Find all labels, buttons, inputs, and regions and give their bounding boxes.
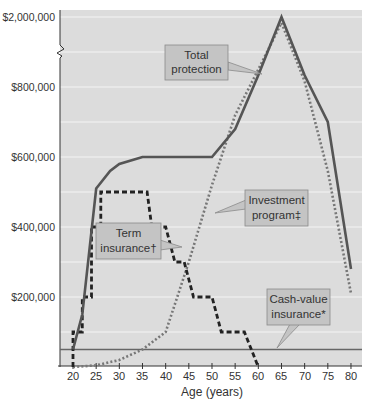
callout-cash-line2: insurance* — [271, 308, 326, 320]
callout-total-line2: protection — [171, 63, 222, 75]
x-label-55: 55 — [229, 370, 241, 382]
y-tick-labels: $2,000,000 $800,000 $600,000 $400,000 $2… — [2, 11, 55, 303]
x-label-40: 40 — [160, 370, 172, 382]
x-label-65: 65 — [275, 370, 287, 382]
y-label-200000: $200,000 — [11, 291, 55, 303]
x-label-20: 20 — [67, 370, 79, 382]
x-label-80: 80 — [345, 370, 357, 382]
y-label-800000: $800,000 — [11, 81, 55, 93]
callout-total-line1: Total — [184, 49, 208, 61]
callout-term-line2: insurance† — [100, 242, 156, 254]
x-label-30: 30 — [113, 370, 125, 382]
y-label-400000: $400,000 — [11, 221, 55, 233]
callout-cash-line1: Cash-value — [269, 293, 327, 305]
x-label-45: 45 — [183, 370, 195, 382]
y-label-2000000: $2,000,000 — [2, 11, 55, 23]
x-label-70: 70 — [299, 370, 311, 382]
x-label-60: 60 — [252, 370, 264, 382]
x-axis-title: Age (years) — [181, 385, 243, 399]
x-tick-labels: 20 25 30 35 40 45 50 55 60 65 70 75 80 — [67, 370, 357, 382]
callout-term-line1: Term — [116, 227, 142, 239]
x-label-75: 75 — [322, 370, 334, 382]
insurance-protection-chart: $2,000,000 $800,000 $600,000 $400,000 $2… — [0, 0, 371, 403]
x-label-25: 25 — [90, 370, 102, 382]
callout-investment-line2: program‡ — [252, 209, 301, 221]
y-label-600000: $600,000 — [11, 151, 55, 163]
callout-investment-line1: Investment — [248, 194, 305, 206]
x-label-50: 50 — [206, 370, 218, 382]
x-label-35: 35 — [136, 370, 148, 382]
